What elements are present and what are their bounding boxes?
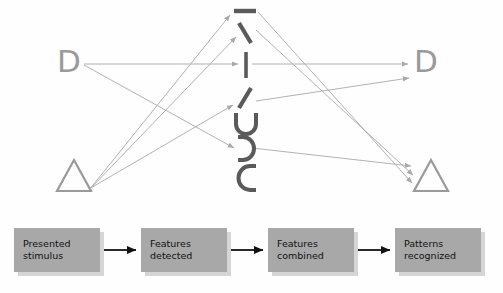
feature-backslash-icon [239, 23, 251, 43]
flowchart-step-label: Features combined [268, 238, 324, 262]
feature-forwardslash-icon [239, 88, 251, 108]
feature-arc-right-icon [238, 137, 254, 160]
flowchart-step-presented-stimulus[interactable]: Presented stimulus [14, 228, 100, 272]
feature-detector-column [234, 11, 256, 190]
connection-input-triangle-to-horizontal-bar [89, 15, 230, 190]
feature-cup-up-icon [236, 113, 256, 134]
connection-input-d-to-arc-right [84, 65, 234, 148]
output-node-letter-d: D [414, 46, 438, 77]
flowchart-step-label: Features detected [141, 238, 192, 262]
network-connections [0, 0, 503, 210]
input-node-letter-d: D [57, 46, 81, 77]
output-connection-lines [252, 12, 413, 183]
output-triangle-shape [414, 160, 448, 191]
flowchart-step-features-detected[interactable]: Features detected [141, 228, 227, 272]
input-triangle-shape [57, 160, 91, 191]
connection-backslash-to-output-triangle [256, 30, 413, 175]
flowchart-step-features-combined[interactable]: Features combined [268, 228, 354, 272]
flowchart-step-patterns-recognized[interactable]: Patterns recognized [395, 228, 481, 272]
flowchart-step-label: Patterns recognized [395, 238, 456, 262]
figure-canvas: D D Presented stimulus Features detected… [0, 0, 503, 293]
input-connection-lines [84, 15, 238, 190]
connection-input-triangle-to-backslash [89, 37, 236, 190]
feature-arc-left-icon [239, 166, 257, 190]
connection-forwardslash-to-output-d [256, 78, 409, 101]
processing-stage-flowchart: Presented stimulus Features detected Fea… [0, 210, 503, 293]
connection-input-triangle-to-forwardslash [89, 105, 233, 189]
flowchart-step-label: Presented stimulus [14, 238, 71, 262]
feature-detection-network: D D [0, 0, 503, 210]
